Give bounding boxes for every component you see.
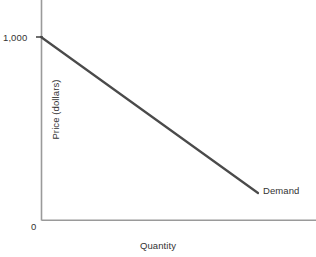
demand-curve-line bbox=[41, 37, 258, 193]
chart-canvas bbox=[0, 0, 316, 257]
y-axis-tick-label-1000: 1,000 bbox=[3, 32, 27, 43]
axis-origin-label: 0 bbox=[31, 221, 36, 232]
y-axis-title: Price (dollars) bbox=[50, 55, 61, 165]
demand-curve-figure: 1,000 0 Price (dollars) Quantity Demand bbox=[0, 0, 316, 257]
demand-curve-label: Demand bbox=[263, 185, 300, 196]
x-axis-title: Quantity bbox=[0, 240, 316, 251]
